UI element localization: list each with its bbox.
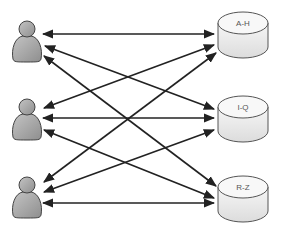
- user-icon: [12, 99, 41, 140]
- user-icon: [12, 177, 41, 218]
- diagram-canvas: A-H I-Q R-Z: [0, 0, 285, 242]
- arrow-user1-iq: [45, 46, 214, 109]
- database-icon-a-h: A-H: [218, 12, 268, 58]
- db-label: A-H: [236, 19, 250, 28]
- db-label: I-Q: [237, 103, 248, 112]
- arrow-user3-iq: [44, 130, 214, 192]
- db-label: R-Z: [236, 183, 249, 192]
- database-icon-r-z: R-Z: [218, 176, 268, 222]
- connections: [43, 34, 216, 203]
- database-icon-i-q: I-Q: [218, 96, 268, 142]
- user-icon: [12, 21, 41, 62]
- arrow-user2-rz: [44, 130, 214, 198]
